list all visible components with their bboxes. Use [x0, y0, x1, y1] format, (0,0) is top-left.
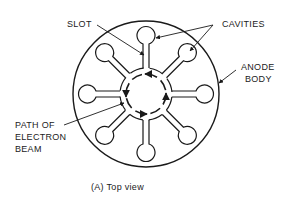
path-label-3: BEAM — [15, 144, 42, 155]
cavities-leader-1 — [156, 25, 213, 38]
path-label-2: ELECTRON — [15, 132, 66, 143]
magnetron-anode-diagram — [0, 0, 289, 214]
anode-leader — [219, 70, 236, 83]
cavities-label: CAVITIES — [222, 19, 265, 30]
anode-label-2: BODY — [245, 74, 272, 85]
slot-label: SLOT — [67, 19, 92, 30]
caption: (A) Top view — [91, 182, 144, 193]
path-label-1: PATH OF — [15, 120, 55, 131]
electron-beam-path — [126, 74, 166, 114]
anode-label-1: ANODE — [241, 62, 275, 73]
